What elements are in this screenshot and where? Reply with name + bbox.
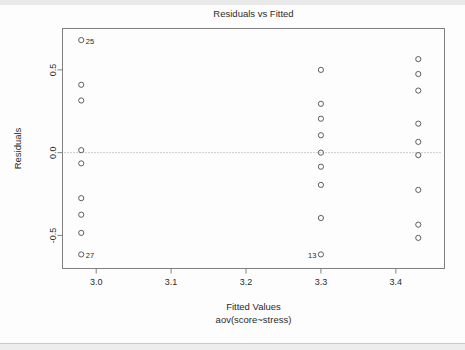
y-tick-label: 0.5 [48,64,58,77]
x-tick-label: 3.3 [315,277,328,287]
x-axis-label: Fitted Values [226,301,281,312]
scan-band-bottom [0,344,465,350]
plot-canvas: Residuals vs Fitted3.03.13.23.33.40.50.0… [0,0,465,350]
data-point [416,235,421,240]
data-point [79,37,84,42]
data-point [318,182,323,187]
plot-frame [63,29,445,269]
data-point [416,57,421,62]
data-point [79,82,84,87]
data-point [318,215,323,220]
data-point [416,121,421,126]
data-point [79,148,84,153]
data-point [318,116,323,121]
data-point [416,88,421,93]
data-point [79,196,84,201]
x-tick-label: 3.1 [165,277,178,287]
data-point [79,252,84,257]
x-tick-label: 3.0 [90,277,103,287]
data-point [416,139,421,144]
chart-title: Residuals vs Fitted [213,8,293,19]
data-point [79,212,84,217]
data-point [416,153,421,158]
data-point [416,71,421,76]
y-tick-label: 0.0 [48,146,58,159]
point-label: 27 [86,251,94,260]
data-point [318,133,323,138]
data-point [318,67,323,72]
point-label: 25 [86,37,94,46]
x-tick-label: 3.4 [390,277,403,287]
data-point [318,252,323,257]
data-point [79,161,84,166]
data-point [416,222,421,227]
data-point [318,101,323,106]
data-point [318,164,323,169]
data-point [79,98,84,103]
y-tick-label: -0.5 [48,228,58,244]
x-axis-sublabel: aov(score~stress) [216,314,292,325]
residuals-vs-fitted-chart: Residuals vs Fitted3.03.13.23.33.40.50.0… [0,0,465,350]
y-axis-label: Residuals [12,127,23,169]
point-label: 13 [308,251,316,260]
data-point [416,187,421,192]
data-point [79,230,84,235]
x-tick-label: 3.2 [240,277,253,287]
